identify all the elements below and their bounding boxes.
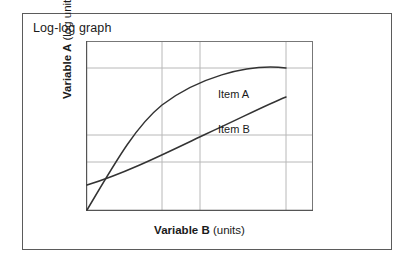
x-axis-title: Variable B (units): [86, 224, 313, 236]
figure-container: Log-log graph: [0, 0, 413, 264]
series-label-item-b: Item B: [218, 123, 250, 135]
chart-svg: [86, 41, 313, 211]
y-axis-title-light: (log units): [61, 0, 73, 41]
series-label-item-a: Item A: [218, 88, 249, 100]
y-axis-title: Variable A (log units): [61, 0, 73, 99]
plot-area: Variable A (log units): [86, 41, 313, 211]
y-axis-title-strong: Variable A: [61, 44, 73, 99]
x-axis-title-strong: Variable B: [154, 224, 210, 236]
series-line-item-b: [87, 97, 286, 185]
series-line-item-a: [87, 67, 286, 210]
x-axis-title-light: (units): [213, 224, 245, 236]
